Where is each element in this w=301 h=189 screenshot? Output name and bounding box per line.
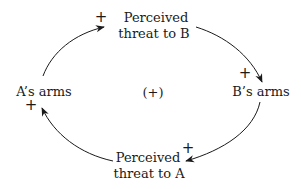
node-perceived-threat-to-a: Perceived threat to A [113, 150, 185, 181]
link-b-arms-to-threat-a [186, 102, 260, 161]
node-threat-b-line1: Perceived [124, 10, 189, 25]
node-threat-a-line1: Perceived [116, 150, 181, 165]
node-threat-b-line2: threat to B [118, 26, 189, 41]
causal-loop-diagram: + + + + Perceived threat to B B’s arms P… [0, 0, 301, 189]
polarity-sign-3: + [182, 139, 195, 157]
loop-polarity-label: (+) [142, 85, 163, 100]
node-a-arms: A’s arms [15, 84, 71, 99]
link-a-arms-to-threat-b [43, 27, 104, 76]
diagram-svg: + + + + Perceived threat to B B’s arms P… [0, 0, 301, 189]
node-threat-a-line2: threat to A [113, 166, 185, 181]
node-a-arms-label: A’s arms [15, 84, 71, 99]
node-b-arms-label: B’s arms [232, 84, 289, 99]
polarity-sign-1: + [95, 8, 108, 26]
link-threat-a-to-a-arms [42, 108, 113, 161]
polarity-sign-2: + [239, 64, 252, 82]
node-b-arms: B’s arms [232, 84, 289, 99]
link-threat-b-to-b-arms [196, 27, 262, 82]
node-perceived-threat-to-b: Perceived threat to B [118, 10, 189, 41]
